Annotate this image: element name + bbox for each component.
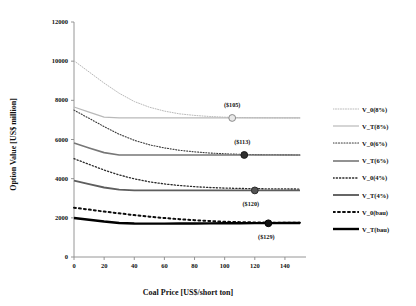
data-point-label: ($105)	[212, 101, 252, 108]
legend-line-swatch	[333, 104, 359, 114]
x-axis-tick-label: 80	[180, 262, 210, 269]
y-axis-tick-label: 10000	[22, 57, 68, 64]
legend-label: V_0(4%)	[362, 174, 387, 181]
legend-item-v-t-6[interactable]: V_T(6%)	[333, 156, 388, 166]
x-axis-tick-label: 60	[149, 262, 179, 269]
data-point-marker	[251, 187, 258, 194]
legend-item-v-t-8[interactable]: V_T(8%)	[333, 121, 388, 131]
series-line-v-0-4	[74, 159, 300, 189]
data-point-marker	[241, 152, 248, 159]
legend-label: V_T(bau)	[362, 226, 389, 233]
y-axis-tick-label: 2000	[22, 214, 68, 221]
plot-area	[0, 0, 416, 306]
x-axis-tick-label: 100	[210, 262, 240, 269]
x-axis-tick-label: 0	[59, 262, 89, 269]
legend-line-swatch	[333, 173, 359, 183]
legend-line-swatch	[333, 224, 359, 234]
x-axis-tick-label: 140	[270, 262, 300, 269]
legend-line-swatch	[333, 207, 359, 217]
data-point-label: ($113)	[222, 138, 262, 145]
data-point-label: ($120)	[231, 200, 271, 207]
y-axis-tick-label: 8000	[22, 96, 68, 103]
legend-item-v-t-bau[interactable]: V_T(bau)	[333, 224, 389, 234]
legend-label: V_0(8%)	[362, 106, 387, 113]
x-axis-tick-label: 40	[119, 262, 149, 269]
chart-figure: Option Value [US$ million] Coal Price [U…	[0, 0, 416, 306]
legend-label: V_0(bau)	[362, 209, 388, 216]
y-axis-tick-label: 4000	[22, 175, 68, 182]
x-axis-tick-label: 20	[89, 262, 119, 269]
legend-label: V_T(4%)	[362, 192, 388, 199]
legend-line-swatch	[333, 138, 359, 148]
y-axis-tick-label: 12000	[22, 18, 68, 25]
legend-label: V_T(6%)	[362, 157, 388, 164]
legend-line-swatch	[333, 156, 359, 166]
legend-item-v-0-8[interactable]: V_0(8%)	[333, 104, 387, 114]
legend-item-v-0-bau[interactable]: V_0(bau)	[333, 207, 388, 217]
y-axis-tick-label: 0	[22, 253, 68, 260]
legend-item-v-0-4[interactable]: V_0(4%)	[333, 173, 387, 183]
series-line-v-t-8	[74, 107, 300, 118]
legend-label: V_0(6%)	[362, 140, 387, 147]
legend-line-swatch	[333, 190, 359, 200]
series-line-v-t-6	[74, 143, 300, 155]
y-axis-tick-label: 6000	[22, 136, 68, 143]
series-line-v-0-8	[74, 61, 300, 118]
data-point-label: ($129)	[246, 233, 286, 240]
data-point-marker	[229, 115, 236, 122]
legend-item-v-0-6[interactable]: V_0(6%)	[333, 138, 387, 148]
legend-label: V_T(8%)	[362, 123, 388, 130]
data-point-marker	[265, 220, 272, 227]
legend-item-v-t-4[interactable]: V_T(4%)	[333, 190, 388, 200]
x-axis-tick-label: 120	[240, 262, 270, 269]
legend-line-swatch	[333, 121, 359, 131]
